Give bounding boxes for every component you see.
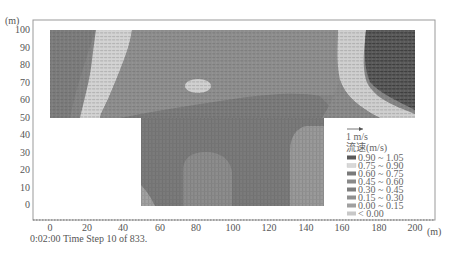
x-tick-60: 60 <box>155 222 165 233</box>
y-axis: (m) 100 90 80 70 60 50 40 30 20 10 0 <box>5 15 30 210</box>
y-tick-60: 60 <box>20 94 30 105</box>
y-tick-40: 40 <box>20 129 30 140</box>
x-tick-200: 200 <box>408 222 423 233</box>
x-tick-160: 160 <box>335 222 350 233</box>
legend-swatch <box>347 180 356 184</box>
lower-flow-region <box>141 118 324 206</box>
y-tick-70: 70 <box>20 77 30 88</box>
x-tick-0: 0 <box>48 222 53 233</box>
legend-swatch <box>347 164 356 168</box>
legend-swatch <box>347 172 356 176</box>
x-axis-unit: (m) <box>427 226 441 238</box>
x-tick-80: 80 <box>191 222 201 233</box>
y-tick-10: 10 <box>20 182 30 193</box>
y-tick-80: 80 <box>20 59 30 70</box>
x-tick-120: 120 <box>262 222 277 233</box>
legend-label: < 0.00 <box>358 208 384 219</box>
time-step-status: 0:02:00 Time Step 10 of 833. <box>30 233 147 244</box>
x-tick-180: 180 <box>372 222 387 233</box>
legend-swatch <box>347 212 356 216</box>
x-tick-100: 100 <box>226 222 241 233</box>
y-tick-50: 50 <box>20 112 30 123</box>
legend-swatch <box>347 188 356 192</box>
vector-scale-label: 1 m/s <box>346 131 368 142</box>
legend-swatch <box>347 196 356 200</box>
y-tick-0: 0 <box>25 199 30 210</box>
legend-swatch <box>347 156 356 160</box>
x-tick-labels: 0 20 40 60 80 100 120 140 160 180 200 <box>48 222 423 233</box>
y-tick-20: 20 <box>20 164 30 175</box>
legend-swatch <box>347 204 356 208</box>
flow-velocity-contour-chart: (m) 100 90 80 70 60 50 40 30 20 10 0 0 2… <box>0 0 456 254</box>
y-tick-90: 90 <box>20 42 30 53</box>
x-tick-40: 40 <box>118 222 128 233</box>
upper-flow-region <box>50 30 415 118</box>
legend: 1 m/s 流速(m/s) 0.90 ~ 1.05 0.75 ~ 0.90 0.… <box>326 120 434 219</box>
y-tick-30: 30 <box>20 147 30 158</box>
x-tick-140: 140 <box>299 222 314 233</box>
y-tick-100: 100 <box>15 24 30 35</box>
x-tick-20: 20 <box>82 222 92 233</box>
y-tick-labels: 100 90 80 70 60 50 40 30 20 10 0 <box>15 24 30 210</box>
